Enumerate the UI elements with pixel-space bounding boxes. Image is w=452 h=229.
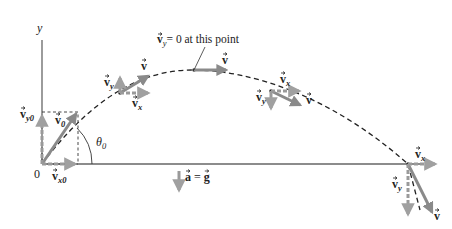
- svg-text:vx: vx: [132, 96, 143, 112]
- rising-vectors: v vy vx: [104, 59, 148, 112]
- svg-text:vx: vx: [415, 147, 426, 163]
- svg-text:vy: vy: [104, 75, 114, 91]
- projectile-diagram: y x 0 θ0 v0 vy0 vx0 v vy vx vy= 0 at thi…: [0, 0, 452, 229]
- angle-arc: [77, 128, 92, 164]
- v-arrow-land: [408, 164, 432, 212]
- apex-vectors: vy= 0 at this point v: [157, 33, 240, 72]
- vector-overarrows: [21, 33, 439, 212]
- apex-pointer: [194, 47, 205, 70]
- apex-note: vy= 0 at this point: [157, 33, 240, 48]
- v0-label: v0: [55, 113, 66, 129]
- acceleration-indicator: a = g: [179, 170, 210, 190]
- svg-text:vy: vy: [256, 90, 266, 106]
- svg-text:vx: vx: [280, 72, 291, 88]
- angle-label: θ0: [96, 135, 107, 151]
- v-arrow: [120, 76, 148, 93]
- axes: y x 0: [34, 21, 432, 181]
- svg-text:vy: vy: [392, 177, 402, 193]
- landing-vectors: vx vy v: [392, 147, 440, 223]
- y-axis-label: y: [36, 21, 43, 35]
- vy0-label: vy0: [20, 107, 35, 123]
- origin-label: 0: [34, 167, 40, 181]
- descending-vectors: vx vy v: [256, 72, 312, 108]
- vx0-label: vx0: [52, 169, 67, 185]
